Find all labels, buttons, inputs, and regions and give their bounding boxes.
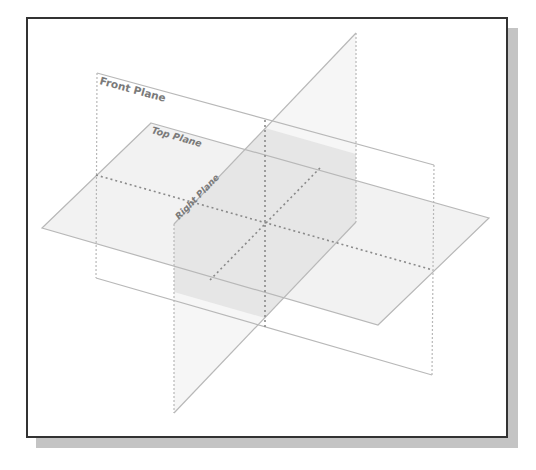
planes-diagram: Front Plane Top Plane Right Plane [0, 0, 536, 470]
front-plane-label: Front Plane [98, 74, 167, 104]
